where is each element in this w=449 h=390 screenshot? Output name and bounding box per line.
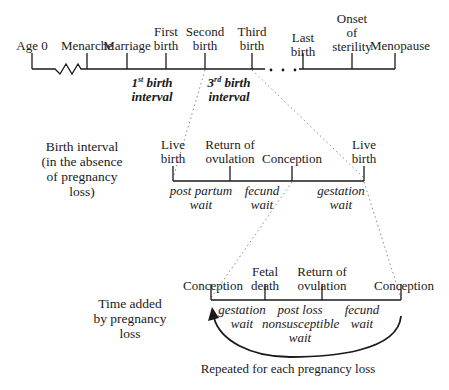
event-label-line: Conception bbox=[261, 152, 323, 166]
wait-label-line: wait bbox=[338, 317, 386, 331]
event-label: Menopause bbox=[370, 38, 430, 53]
wait-label-line: nonsusceptible bbox=[262, 317, 338, 331]
repeat-caption-text: Repeated for each pregnancy loss bbox=[201, 361, 376, 376]
event-fetal-death: Fetal death bbox=[246, 265, 284, 293]
repeat-caption: Repeated for each pregnancy loss bbox=[198, 362, 378, 376]
wait-label-line: fecund bbox=[338, 303, 386, 317]
event-age-0: Age 0 bbox=[6, 39, 58, 53]
event-label-line: Live bbox=[347, 138, 381, 152]
event-label-line: birth bbox=[156, 152, 190, 166]
wait-post-loss-nonsusceptible: post loss nonsusceptible wait bbox=[262, 303, 338, 345]
wait-label-line: wait bbox=[240, 198, 284, 212]
event-return-of-ovulation: Return of ovulation bbox=[198, 138, 262, 166]
caption-line: of pregnancy bbox=[30, 169, 134, 184]
interval-label-line: interval bbox=[202, 90, 256, 104]
event-label-line: Conception bbox=[182, 279, 244, 293]
event-menopause: Menopause bbox=[365, 39, 435, 53]
caption-line: loss) bbox=[30, 184, 134, 199]
interval-text: birth bbox=[143, 75, 172, 90]
event-return-of-ovulation-loss: Return of ovulation bbox=[290, 265, 354, 293]
interval-label-line: 3rd birth bbox=[202, 73, 256, 90]
wait-label-line: wait bbox=[166, 198, 236, 212]
top-timeline-axis bbox=[32, 53, 395, 74]
event-live-birth-end: Live birth bbox=[347, 138, 381, 166]
event-first-birth: First birth bbox=[146, 25, 186, 53]
event-label-line: birth bbox=[182, 39, 228, 53]
wait-post-partum: post partum wait bbox=[166, 184, 236, 212]
time-added-caption: Time added by pregnancy loss bbox=[84, 296, 176, 341]
event-label-line: birth bbox=[282, 45, 324, 59]
event-label: Age 0 bbox=[16, 38, 47, 53]
event-label-line: First bbox=[146, 25, 186, 39]
ellipsis-dots bbox=[270, 69, 297, 72]
wait-fecund: fecund wait bbox=[240, 184, 284, 212]
caption-line: loss bbox=[84, 326, 176, 341]
event-label-line: ovulation bbox=[290, 279, 354, 293]
event-label: Marriage bbox=[103, 38, 151, 53]
interval-1st-birth: 1st birth interval bbox=[126, 73, 178, 104]
event-conception: Conception bbox=[261, 152, 323, 166]
event-label-line: Third bbox=[230, 25, 274, 39]
middle-timeline-axis bbox=[173, 166, 364, 181]
event-conception-end: Conception bbox=[372, 279, 436, 293]
wait-label-line: post loss bbox=[262, 303, 338, 317]
event-label-line: Return of bbox=[198, 138, 262, 152]
event-label-line: Onset bbox=[326, 12, 378, 26]
event-label-line: birth bbox=[347, 152, 381, 166]
interval-3rd-birth: 3rd birth interval bbox=[202, 73, 256, 104]
event-last-birth: Last birth bbox=[282, 31, 324, 59]
caption-line: (in the absence bbox=[30, 154, 134, 169]
event-label-line: Fetal bbox=[246, 265, 284, 279]
wait-label-line: wait bbox=[262, 331, 338, 345]
wait-label-line: fecund bbox=[240, 184, 284, 198]
event-label-line: Last bbox=[282, 31, 324, 45]
event-label-line: birth bbox=[146, 39, 186, 53]
event-label-line: birth bbox=[230, 39, 274, 53]
event-label-line: Return of bbox=[290, 265, 354, 279]
event-label-line: ovulation bbox=[198, 152, 262, 166]
interval-label-line: 1st birth bbox=[126, 73, 178, 90]
birth-interval-caption: Birth interval (in the absence of pregna… bbox=[30, 139, 134, 199]
event-label-line: Second bbox=[182, 25, 228, 39]
event-second-birth: Second birth bbox=[182, 25, 228, 53]
interval-text: birth bbox=[221, 75, 250, 90]
wait-label-line: gestation bbox=[313, 184, 369, 198]
wait-gestation: gestation wait bbox=[313, 184, 369, 212]
caption-line: by pregnancy bbox=[84, 311, 176, 326]
wait-label-line: wait bbox=[313, 198, 369, 212]
event-third-birth: Third birth bbox=[230, 25, 274, 53]
event-label-line: Conception bbox=[372, 279, 436, 293]
caption-line: Time added bbox=[84, 296, 176, 311]
wait-label-line: post partum bbox=[166, 184, 236, 198]
caption-line: Birth interval bbox=[30, 139, 134, 154]
wait-fecund-loss: fecund wait bbox=[338, 303, 386, 331]
interval-label-line: interval bbox=[126, 90, 178, 104]
event-label-line: death bbox=[246, 279, 284, 293]
event-label-line: Live bbox=[156, 138, 190, 152]
event-conception-start: Conception bbox=[182, 279, 244, 293]
event-live-birth-start: Live birth bbox=[156, 138, 190, 166]
